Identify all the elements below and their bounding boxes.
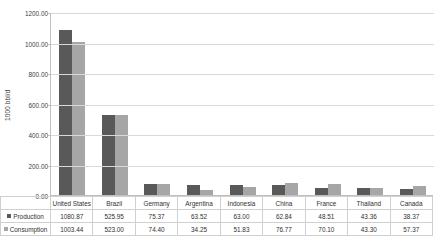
legend-swatch-icon [7,214,11,218]
table-column-header: China [263,197,305,210]
y-axis-tick-label: 1000.00 [16,40,48,47]
table-cell-value: 523.00 [93,223,135,236]
table-cell-value: 34.25 [178,223,220,236]
y-axis-tick [48,44,51,45]
bar-consumption[interactable] [115,115,128,195]
bar-group [264,12,307,195]
bar-consumption[interactable] [413,186,426,195]
y-axis-tick-label: 400.00 [16,132,48,139]
table-cell-value: 63.52 [178,210,220,223]
table-cell-value: 43.36 [348,210,390,223]
table-cell-value: 43.30 [348,223,390,236]
bar-group [94,12,137,195]
y-axis-tick-label: 200.00 [16,162,48,169]
bar-production[interactable] [144,184,157,195]
bar-production[interactable] [400,189,413,195]
table-corner-cell [1,197,51,210]
table-cell-value: 48.51 [305,210,347,223]
table-column-header: Indonesia [220,197,262,210]
table-cell-value: 75.37 [135,210,177,223]
bar-consumption[interactable] [328,184,341,195]
table-column-header: Brazil [93,197,135,210]
table-row: Production1080.87525.9575.3763.5263.0062… [1,210,433,223]
gridline [51,135,434,136]
bar-production[interactable] [230,185,243,195]
table-column-header: France [305,197,347,210]
table-cell-value: 62.84 [263,210,305,223]
y-axis-tick [48,166,51,167]
table-cell-value: 1003.44 [51,223,93,236]
legend-label: Production [13,213,44,220]
table-column-header: Canada [390,197,433,210]
bar-production[interactable] [357,188,370,195]
bar-production[interactable] [59,30,72,195]
table-cell-value: 1080.87 [51,210,93,223]
chart-root: 1000 bbl/d 1200.001000.00800.00600.00400… [0,0,447,242]
table-row: Consumption1003.44523.0074.4034.2551.837… [1,223,433,236]
y-axis-tick-label: 800.00 [16,71,48,78]
bar-group [221,12,264,195]
data-table-wrapper: United StatesBrazilGermanyArgentinaIndon… [0,196,447,236]
bar-groups [51,12,434,195]
gridline [51,105,434,106]
bar-consumption[interactable] [370,188,383,195]
legend-swatch-icon [4,227,8,231]
bar-production[interactable] [315,188,328,195]
bar-production[interactable] [272,185,285,195]
bar-group [136,12,179,195]
y-axis-tick [48,135,51,136]
y-axis-tick-label: 600.00 [16,101,48,108]
bar-group [306,12,349,195]
gridline [51,44,434,45]
y-axis-tick-label: 1200.00 [16,10,48,17]
table-cell-value: 525.95 [93,210,135,223]
bar-consumption[interactable] [200,190,213,195]
table-column-header: Argentina [178,197,220,210]
table-cell-value: 76.77 [263,223,305,236]
bar-production[interactable] [102,115,115,195]
bar-chart: 1000 bbl/d 1200.001000.00800.00600.00400… [0,0,447,197]
bar-consumption[interactable] [285,183,298,195]
y-axis-tick-labels: 1200.001000.00800.00600.00400.00200.000.… [16,0,48,197]
y-axis-tick [48,74,51,75]
table-column-header: Germany [135,197,177,210]
plot-area [50,13,433,196]
legend-entry-production[interactable]: Production [1,210,51,223]
y-axis-tick [48,105,51,106]
bar-group [179,12,222,195]
bar-group [392,12,435,195]
data-table: United StatesBrazilGermanyArgentinaIndon… [0,196,433,236]
gridline [51,166,434,167]
bar-consumption[interactable] [157,184,170,195]
table-column-header: Thailand [348,197,390,210]
bar-production[interactable] [187,185,200,195]
bar-group [349,12,392,195]
legend-entry-consumption[interactable]: Consumption [1,223,51,236]
table-column-header: United States [51,197,93,210]
table-cell-value: 63.00 [220,210,262,223]
legend-label: Consumption [10,226,48,233]
table-cell-value: 38.37 [390,210,433,223]
y-axis-tick [48,13,51,14]
bar-group [51,12,94,195]
bar-consumption[interactable] [72,42,85,195]
gridline [51,13,434,14]
table-cell-value: 51.83 [220,223,262,236]
table-cell-value: 57.37 [390,223,433,236]
table-cell-value: 74.40 [135,223,177,236]
table-cell-value: 70.10 [305,223,347,236]
table-header-row: United StatesBrazilGermanyArgentinaIndon… [1,197,433,210]
bar-consumption[interactable] [243,187,256,195]
gridline [51,74,434,75]
y-axis-title: 1000 bbl/d [4,70,16,140]
